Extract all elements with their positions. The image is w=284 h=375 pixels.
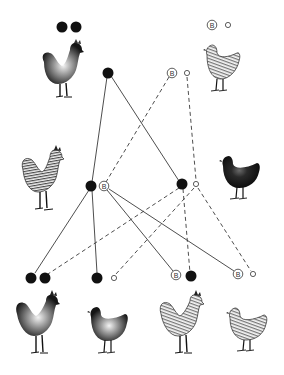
empty-allele-icon (250, 271, 255, 276)
p-rooster-genotype (57, 22, 82, 33)
f2-black-rooster-illustration (16, 290, 60, 353)
inheritance-diagram: B B B B B (0, 0, 284, 375)
f2-1-genotype (26, 273, 51, 284)
f2-4-genotype: B (233, 269, 255, 279)
black-allele-icon (186, 271, 197, 282)
barred-allele-label: B (174, 272, 179, 279)
f1-black-hen-illustration (219, 156, 260, 199)
p-black-rooster-illustration (43, 39, 84, 97)
black-allele-icon (103, 68, 114, 79)
line-dashed (48, 188, 179, 274)
black-allele-icon (177, 179, 188, 190)
line-solid (111, 76, 179, 181)
line-dashed (106, 77, 169, 182)
barred-allele-label: B (170, 70, 175, 77)
black-allele-icon (26, 273, 37, 284)
line-dashed (198, 188, 251, 271)
empty-allele-icon (193, 181, 198, 186)
f1-rooster-genotype: B (86, 181, 109, 192)
line-solid (92, 190, 97, 273)
empty-allele-icon (225, 22, 230, 27)
f2-2-genotype (92, 273, 117, 284)
connection-lines (35, 76, 251, 274)
barred-allele-label: B (102, 183, 107, 190)
black-allele-icon (92, 273, 103, 284)
barred-allele-label: B (210, 22, 215, 29)
line-dashed (187, 77, 196, 180)
black-allele-icon (57, 22, 68, 33)
empty-allele-icon (111, 275, 116, 280)
line-solid (107, 190, 173, 271)
f1-barred-rooster-illustration (22, 145, 64, 210)
line-solid (109, 189, 234, 271)
f2-black-hen-illustration (87, 307, 128, 353)
f1-hen-genotype (177, 179, 199, 190)
f2-barred-rooster-illustration (160, 290, 204, 353)
line-dashed (183, 189, 190, 273)
p-hen-genotype: B (207, 20, 230, 30)
barred-allele-label: B (236, 271, 241, 278)
p-barred-hen-illustration (203, 45, 240, 91)
black-allele-icon (40, 273, 51, 284)
f2-3-genotype: B (171, 270, 196, 281)
black-allele-icon (71, 22, 82, 33)
black-allele-icon (86, 181, 97, 192)
p-gametes: B (103, 68, 190, 79)
f2-barred-hen-illustration (226, 308, 267, 351)
line-solid (35, 190, 89, 273)
line-solid (92, 77, 107, 182)
empty-allele-icon (184, 70, 189, 75)
